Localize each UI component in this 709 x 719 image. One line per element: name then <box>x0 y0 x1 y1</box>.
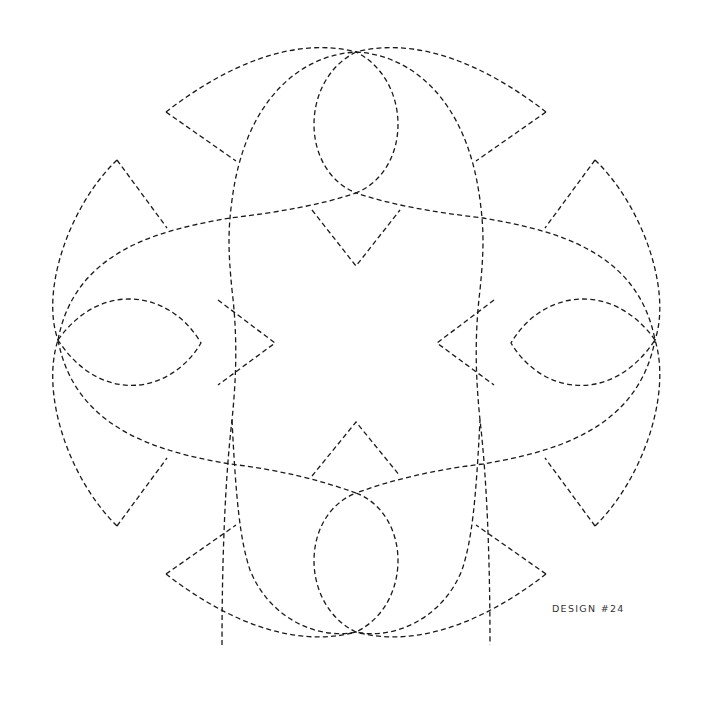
bottom-motif <box>166 420 546 637</box>
left-motif <box>53 160 275 526</box>
right-motif <box>437 160 660 526</box>
design-label: DESIGN #24 <box>552 603 625 614</box>
top-motif <box>166 48 546 645</box>
pattern-quadrant-group <box>53 48 660 645</box>
horizontal-band <box>58 193 655 493</box>
